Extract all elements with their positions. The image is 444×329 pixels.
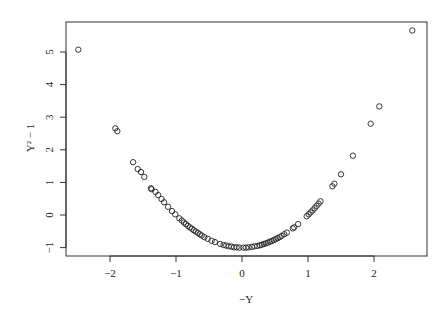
x-tick-label: 0 [239,267,245,279]
y-tick-label: −1 [43,242,55,254]
x-tick-label: 1 [305,267,311,279]
plot-background [0,0,444,329]
y-tick-label: 5 [43,49,55,55]
y-tick-label: 1 [43,180,55,186]
y-tick-label: 2 [43,147,55,153]
x-tick-label: −1 [170,267,182,279]
scatter-plot: −2−1012 −1012345 −Y Y² − 1 [0,0,444,329]
y-tick-label: 3 [43,114,55,120]
y-axis-title: Y² − 1 [24,124,36,152]
x-tick-label: 2 [371,267,377,279]
y-tick-label: 0 [43,212,55,218]
x-axis-title: −Y [239,293,253,305]
x-tick-label: −2 [104,267,116,279]
y-tick-label: 4 [43,81,55,87]
